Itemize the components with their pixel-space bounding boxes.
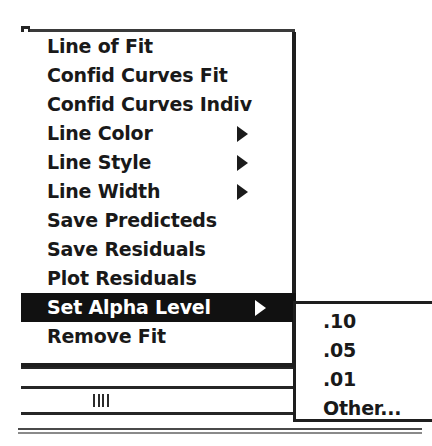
- menu-item-label: Line Style: [47, 148, 151, 177]
- submenu-item-alpha-05[interactable]: .05: [296, 336, 432, 365]
- submenu-item-label: Other...: [323, 397, 401, 419]
- submenu-arrow-icon: [237, 126, 248, 142]
- menu-item-set-alpha-level[interactable]: Set Alpha Level: [21, 293, 296, 322]
- horizontal-scrollbar[interactable]: [21, 386, 296, 415]
- menu-item-label: Line Width: [47, 177, 160, 206]
- submenu-item-label: .01: [323, 368, 356, 390]
- menu-item-save-predicteds[interactable]: Save Predicteds: [21, 206, 292, 235]
- scrollbar-thumb-grip-icon[interactable]: [93, 394, 109, 407]
- submenu-item-alpha-10[interactable]: .10: [296, 307, 432, 336]
- submenu-arrow-icon: [237, 184, 248, 200]
- menu-item-label: Save Residuals: [47, 235, 206, 264]
- menu-item-line-width[interactable]: Line Width: [21, 177, 292, 206]
- menu-item-line-style[interactable]: Line Style: [21, 148, 292, 177]
- menu-item-line-color[interactable]: Line Color: [21, 119, 292, 148]
- window-content-strip: [21, 369, 296, 386]
- submenu-bottom-border: [293, 419, 422, 422]
- menu-item-label: Plot Residuals: [47, 264, 197, 293]
- menu-item-label: Line of Fit: [47, 32, 153, 61]
- menu-item-plot-residuals[interactable]: Plot Residuals: [21, 264, 292, 293]
- submenu-item-label: .05: [323, 339, 356, 361]
- submenu-top-border: [293, 301, 425, 304]
- fit-menu[interactable]: Line of Fit Confid Curves Fit Confid Cur…: [21, 32, 296, 367]
- screen: Line of Fit Confid Curves Fit Confid Cur…: [0, 0, 432, 446]
- submenu-arrow-icon: [255, 300, 266, 316]
- menu-item-line-of-fit[interactable]: Line of Fit: [21, 32, 292, 61]
- alpha-level-submenu[interactable]: .10 .05 .01 Other...: [293, 301, 432, 422]
- menu-item-label: Line Color: [47, 119, 153, 148]
- menu-item-confid-curves-fit[interactable]: Confid Curves Fit: [21, 61, 292, 90]
- menu-item-label: Remove Fit: [47, 322, 166, 351]
- menu-item-save-residuals[interactable]: Save Residuals: [21, 235, 292, 264]
- submenu-item-label: .10: [323, 310, 356, 332]
- page-bottom-rule-upper: [18, 428, 422, 430]
- submenu-arrow-icon: [237, 155, 248, 171]
- menu-item-label: Confid Curves Fit: [47, 61, 228, 90]
- menu-item-label: Save Predicteds: [47, 206, 217, 235]
- menu-item-confid-curves-indiv[interactable]: Confid Curves Indiv: [21, 90, 292, 119]
- submenu-item-alpha-01[interactable]: .01: [296, 365, 432, 394]
- menu-item-label: Confid Curves Indiv: [47, 90, 252, 119]
- page-bottom-rule-lower: [18, 432, 422, 434]
- menu-item-remove-fit[interactable]: Remove Fit: [21, 322, 292, 351]
- menu-item-label: Set Alpha Level: [47, 293, 211, 322]
